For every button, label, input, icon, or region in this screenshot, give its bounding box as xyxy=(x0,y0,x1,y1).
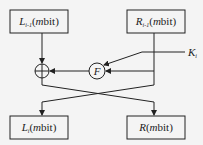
arrow-key-to-f xyxy=(104,52,142,65)
label-right-output: R(mbit) xyxy=(138,121,173,134)
label-left-input: Li-1(mbit) xyxy=(18,15,59,28)
key-label: Ki xyxy=(187,46,197,59)
label-right-input: Ri-1(mbit) xyxy=(135,15,177,28)
function-f-label: F xyxy=(93,65,101,77)
diagram-canvas: Li-1(mbit) Ri-1(mbit) F Ki Li(mbit) R(mb… xyxy=(0,0,203,145)
label-left-output: Li(mbit) xyxy=(21,121,57,134)
feistel-diagram: Li-1(mbit) Ri-1(mbit) F Ki Li(mbit) R(mb… xyxy=(0,0,203,145)
